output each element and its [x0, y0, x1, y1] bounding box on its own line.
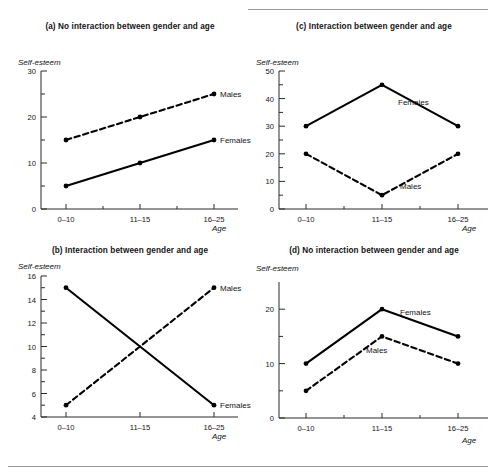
series-label-females-c: Females — [398, 98, 429, 107]
y-tick-a-20: 20 — [28, 113, 36, 122]
data-point — [304, 151, 309, 156]
x-tick-a-2: 11–15 — [130, 215, 151, 224]
x-tick-c-1: 0–10 — [298, 215, 315, 224]
series-label-males-a: Males — [220, 90, 241, 99]
data-point — [380, 82, 385, 87]
chart-panel-c: (c) Interaction between gender and age S… — [248, 16, 496, 241]
y-tick-c-10: 10 — [266, 177, 274, 186]
plot-area-c: 0 10 20 30 40 50 0–10 11–15 16–25 — [248, 16, 496, 241]
data-point — [64, 184, 69, 189]
data-point — [138, 115, 143, 120]
x-tick-d-1: 0–10 — [298, 424, 315, 433]
data-point — [456, 334, 461, 339]
x-tick-a-1: 0–10 — [58, 215, 75, 224]
data-point — [304, 124, 309, 129]
data-point — [380, 334, 385, 339]
x-tick-b-2: 11–15 — [130, 423, 151, 432]
data-point — [380, 193, 385, 198]
y-tick-d-0: 0 — [270, 414, 274, 423]
y-tick-b-6: 6 — [32, 390, 36, 399]
header-rule — [248, 9, 488, 10]
x-tick-a-3: 16–25 — [203, 215, 224, 224]
footer-rule — [8, 466, 488, 467]
y-tick-d-20: 20 — [266, 305, 274, 314]
plot-area-a: 0 10 20 30 0–10 11–15 16–25 — [0, 16, 248, 241]
series-label-males-d: Males — [366, 346, 387, 355]
y-tick-a-30: 30 — [28, 67, 36, 76]
y-tick-c-40: 40 — [266, 95, 274, 104]
data-point — [138, 161, 143, 166]
data-point — [304, 388, 309, 393]
plot-area-d: 0 10 20 0–10 11–15 16–25 — [248, 240, 496, 462]
y-tick-b-12: 12 — [28, 319, 36, 328]
x-tick-c-3: 16–25 — [447, 215, 468, 224]
y-tick-c-50: 50 — [266, 67, 274, 76]
series-label-females-b: Females — [220, 401, 251, 410]
data-point — [212, 403, 217, 408]
data-point — [64, 403, 69, 408]
series-label-females-a: Females — [220, 136, 251, 145]
data-point — [380, 307, 385, 312]
data-point — [212, 92, 217, 97]
y-tick-c-0: 0 — [270, 205, 274, 214]
y-tick-b-10: 10 — [28, 343, 36, 352]
y-tick-d-10: 10 — [266, 360, 274, 369]
y-tick-b-8: 8 — [32, 366, 36, 375]
series-label-males-c: Males — [400, 182, 421, 191]
x-tick-c-2: 11–15 — [372, 215, 393, 224]
data-point — [456, 124, 461, 129]
y-tick-c-20: 20 — [266, 150, 274, 159]
series-label-males-b: Males — [220, 284, 241, 293]
data-point — [64, 285, 69, 290]
data-point — [212, 285, 217, 290]
x-tick-b-3: 16–25 — [203, 423, 224, 432]
plot-area-b: 4 6 8 10 12 14 16 0–10 11–15 16–25 — [0, 240, 248, 462]
y-tick-b-4: 4 — [32, 413, 36, 422]
y-tick-b-16: 16 — [28, 272, 36, 281]
y-tick-a-10: 10 — [28, 159, 36, 168]
y-tick-a-0: 0 — [32, 205, 36, 214]
data-point — [212, 138, 217, 143]
series-line-males-c — [306, 154, 458, 195]
chart-panel-a: (a) No interaction between gender and ag… — [0, 16, 248, 241]
series-label-females-d: Females — [400, 308, 431, 317]
x-tick-d-3: 16–25 — [447, 424, 468, 433]
data-point — [64, 138, 69, 143]
y-tick-b-14: 14 — [28, 296, 36, 305]
y-tick-c-30: 30 — [266, 122, 274, 131]
data-point — [304, 361, 309, 366]
x-tick-d-2: 11–15 — [372, 424, 393, 433]
series-line-males-d — [306, 336, 458, 390]
chart-panel-d: (d) No interaction between gender and ag… — [248, 240, 496, 462]
series-line-females-c — [306, 85, 458, 126]
chart-panel-b: (b) Interaction between gender and age S… — [0, 240, 248, 462]
figure-page: (a) No interaction between gender and ag… — [0, 0, 496, 473]
data-point — [456, 151, 461, 156]
x-tick-b-1: 0–10 — [58, 423, 75, 432]
data-point — [456, 361, 461, 366]
